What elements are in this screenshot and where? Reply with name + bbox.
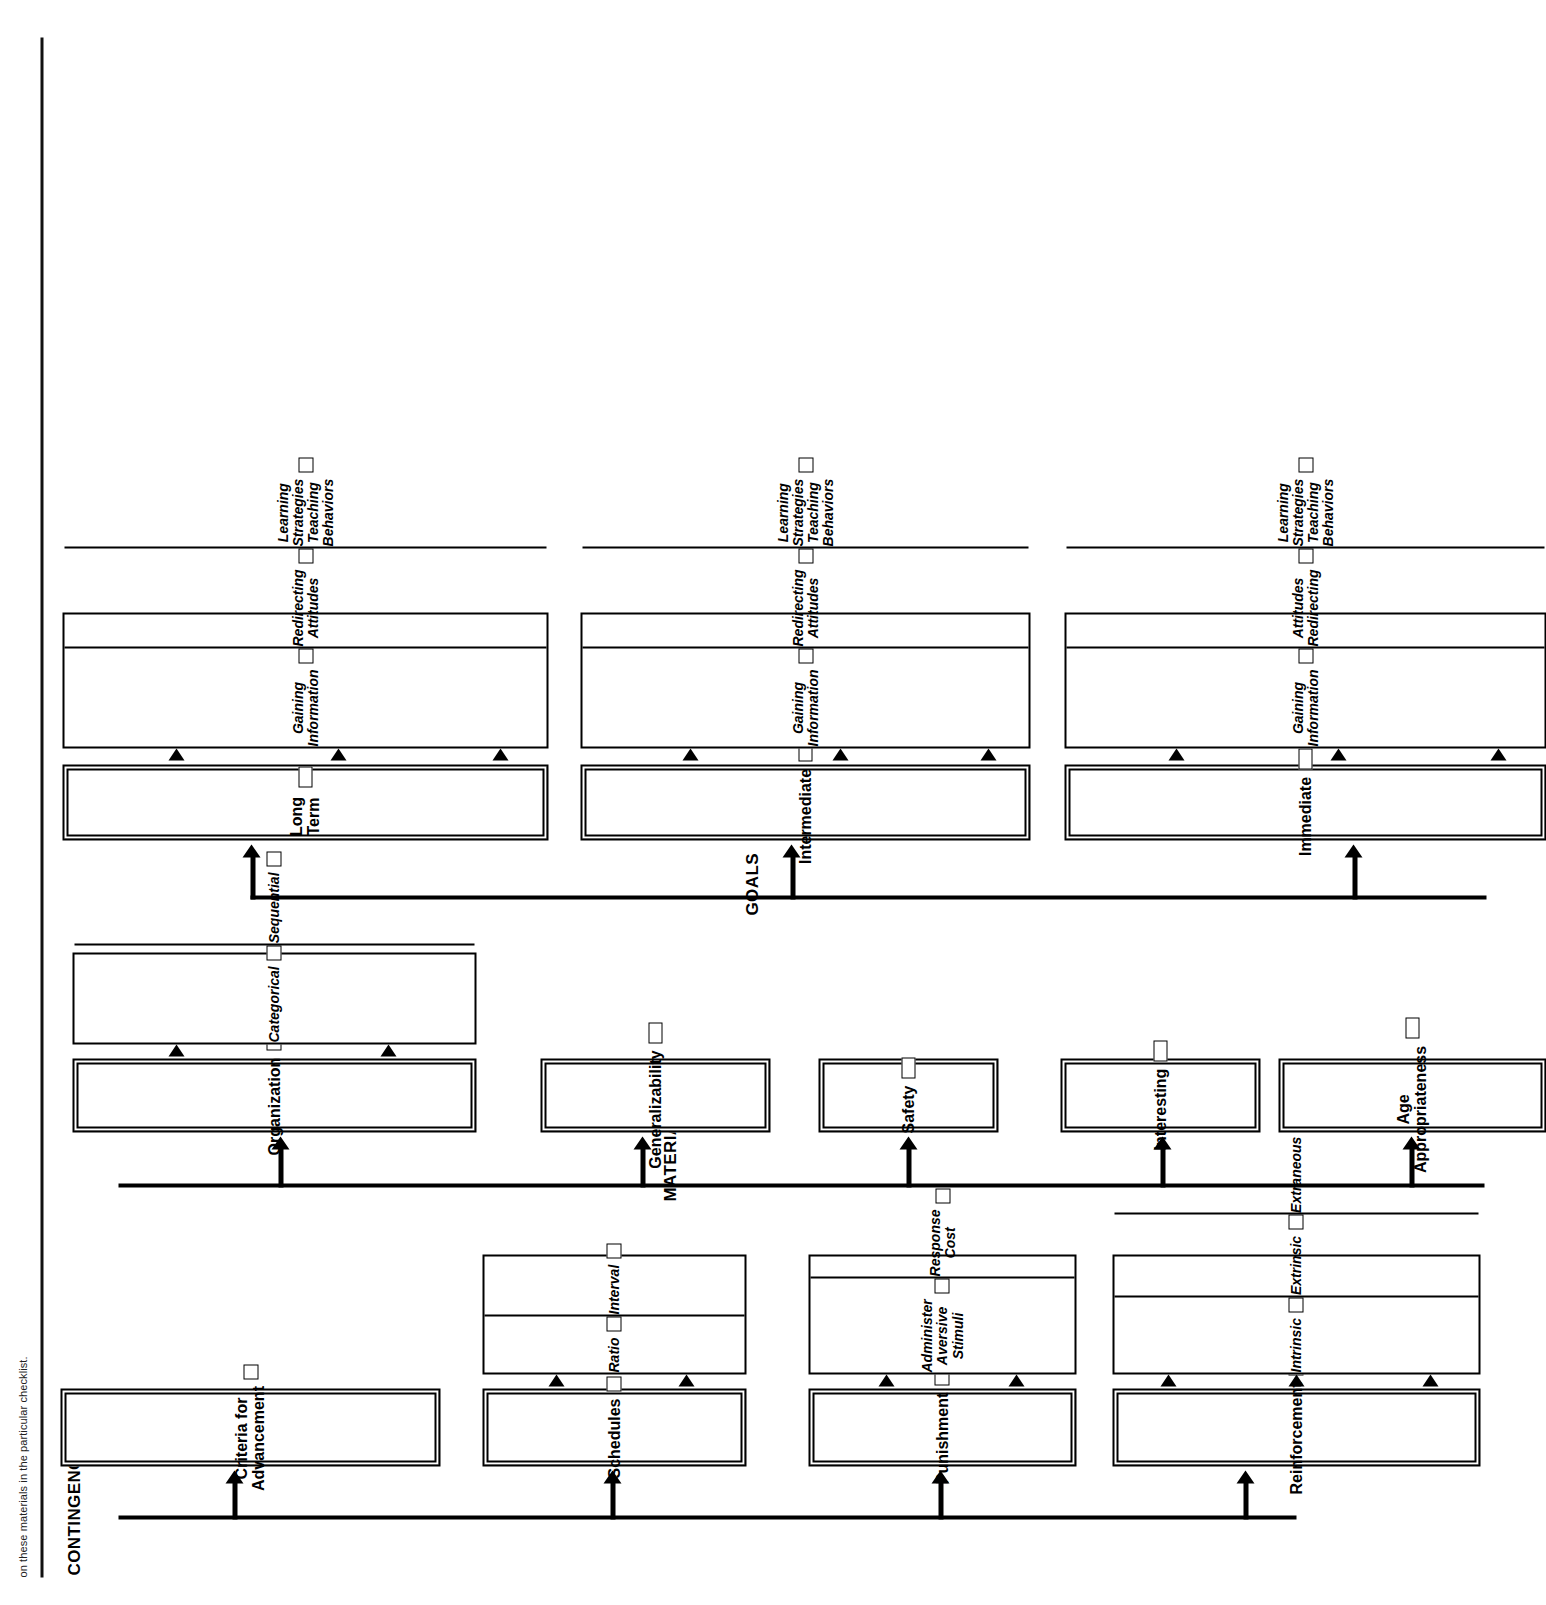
cell-intermediate-redirecting-attitudes-label: RedirectingAttitudes xyxy=(790,569,820,646)
node-age-appropriateness[interactable]: Age Appropriateness xyxy=(1278,1058,1546,1132)
arrow-categorical xyxy=(380,1044,396,1056)
cell-response-cost[interactable]: ResponseCost xyxy=(810,1188,1074,1278)
stem-reinforcement xyxy=(1243,1481,1248,1519)
arrow-intermediate-gaining-information xyxy=(980,748,996,760)
checkbox-long-term-learning-strategies[interactable] xyxy=(298,457,313,472)
cell-immediate-gaining-information[interactable]: GainingInformation xyxy=(1066,648,1544,746)
arrow-administer-aversive-stimuli xyxy=(1008,1374,1024,1386)
checkbox-sequential[interactable] xyxy=(266,851,281,866)
node-generalizability[interactable]: Generalizability xyxy=(540,1058,770,1132)
materials-trunk xyxy=(118,1183,1484,1187)
cell-long-term-redirecting-attitudes-label: RedirectingAttitudes xyxy=(290,569,320,646)
checkbox-immediate-attitudes-redirecting[interactable] xyxy=(1298,548,1313,563)
cell-long-term-gaining-information[interactable]: GainingInformation xyxy=(64,648,546,746)
checkbox-immediate[interactable] xyxy=(1298,748,1312,769)
cell-interval-label: Interval xyxy=(606,1264,621,1314)
node-immediate-label: Immediate xyxy=(1297,776,1314,855)
checkbox-administer-aversive-stimuli[interactable] xyxy=(934,1278,949,1293)
cell-long-term-gaining-information-label: GainingInformation xyxy=(290,669,320,746)
node-intermediate-label: Intermediate xyxy=(797,768,814,863)
checkbox-long-term[interactable] xyxy=(298,766,312,787)
cell-long-term-redirecting-attitudes[interactable]: RedirectingAttitudes xyxy=(64,548,546,648)
node-reinforcement-label: Reinforcement xyxy=(1288,1382,1305,1494)
cell-extraneous-label: Extraneous xyxy=(1288,1136,1303,1212)
node-safety[interactable]: Safety xyxy=(818,1058,998,1132)
stem-interesting xyxy=(1160,1147,1165,1187)
checkbox-intrinsic[interactable] xyxy=(1288,1297,1303,1312)
checkbox-age-appropriateness[interactable] xyxy=(1405,1017,1419,1038)
arrow-ratio xyxy=(678,1374,694,1386)
node-schedules[interactable]: Schedules xyxy=(482,1388,746,1466)
node-organization[interactable]: Organization xyxy=(72,1058,476,1132)
cell-intermediate-redirecting-attitudes[interactable]: RedirectingAttitudes xyxy=(582,548,1028,648)
stem-long-term xyxy=(250,855,255,899)
node-punishment-label: Punishment xyxy=(934,1392,951,1484)
arrow-intermediate-redirecting-attitudes xyxy=(832,748,848,760)
arrow-long-term-gaining-information xyxy=(492,748,508,760)
node-safety-label: Safety xyxy=(900,1085,917,1133)
checkbox-generalizability[interactable] xyxy=(648,1022,662,1043)
node-punishment[interactable]: Punishment xyxy=(808,1388,1076,1466)
cell-immediate-attitudes-redirecting[interactable]: AttitudesRedirecting xyxy=(1066,548,1544,648)
node-organization-label: Organization xyxy=(266,1057,283,1155)
arrow-sequential xyxy=(168,1044,184,1056)
goals-trunk xyxy=(250,895,1486,899)
arrowhead-immediate xyxy=(1344,844,1362,857)
node-reinforcement[interactable]: Reinforcement xyxy=(1112,1388,1480,1466)
checkbox-long-term-gaining-information[interactable] xyxy=(298,648,313,663)
checkbox-categorical[interactable] xyxy=(266,945,281,960)
checkbox-intermediate-learning-strategies[interactable] xyxy=(798,457,813,472)
cell-administer-aversive-stimuli-label: AdministerAversiveStimuli xyxy=(919,1299,964,1372)
cell-intermediate-gaining-information[interactable]: GainingInformation xyxy=(582,648,1028,746)
node-intermediate[interactable]: Intermediate xyxy=(580,764,1030,840)
cell-interval[interactable]: Interval xyxy=(484,1243,744,1316)
arrow-extrinsic xyxy=(1288,1374,1304,1386)
checkbox-long-term-redirecting-attitudes[interactable] xyxy=(298,548,313,563)
checkbox-interesting[interactable] xyxy=(1153,1040,1167,1061)
cell-immediate-attitudes-redirecting-label: AttitudesRedirecting xyxy=(1290,569,1320,646)
node-immediate[interactable]: Immediate xyxy=(1064,764,1546,840)
cell-intermediate-learning-strategies[interactable]: LearningStrategiesTeachingBehaviors xyxy=(582,457,1028,548)
stem-punishment xyxy=(938,1481,943,1519)
cell-immediate-learning-strategies-label: LearningStrategiesTeachingBehaviors xyxy=(1275,478,1335,546)
checkbox-immediate-learning-strategies[interactable] xyxy=(1298,457,1313,472)
stem-schedules xyxy=(610,1481,615,1519)
cell-extrinsic[interactable]: Extrinsic xyxy=(1114,1214,1478,1296)
stem-immediate xyxy=(1352,855,1357,899)
arrow-long-term-learning-strategies xyxy=(168,748,184,760)
node-long-term-label: Long Term xyxy=(288,794,322,838)
arrow-response-cost xyxy=(878,1374,894,1386)
children-punishment: AdministerAversiveStimuli ResponseCost xyxy=(808,1254,1076,1374)
node-long-term[interactable]: Long Term xyxy=(62,764,548,840)
cell-long-term-learning-strategies[interactable]: LearningStrategiesTeachingBehaviors xyxy=(64,457,546,548)
cell-intrinsic[interactable]: Intrinsic xyxy=(1114,1297,1478,1372)
checkbox-criteria-for-advancement[interactable] xyxy=(243,1364,258,1379)
checkbox-interval[interactable] xyxy=(606,1243,621,1258)
node-interesting[interactable]: Interesting xyxy=(1060,1058,1260,1132)
arrow-immediate-learning-strategies xyxy=(1168,748,1184,760)
section-label-goals: GOALS xyxy=(742,853,762,915)
arrowhead-long-term xyxy=(242,844,260,857)
arrow-immediate-gaining-information xyxy=(1490,748,1506,760)
cell-ratio[interactable]: Ratio xyxy=(484,1316,744,1372)
checkbox-intermediate-gaining-information[interactable] xyxy=(798,648,813,663)
cell-response-cost-label: ResponseCost xyxy=(927,1209,957,1276)
checkbox-response-cost[interactable] xyxy=(935,1188,950,1203)
checkbox-schedules[interactable] xyxy=(606,1376,621,1391)
checkbox-safety[interactable] xyxy=(901,1057,915,1078)
checkbox-extrinsic[interactable] xyxy=(1288,1214,1303,1229)
cell-administer-aversive-stimuli[interactable]: AdministerAversiveStimuli xyxy=(810,1278,1074,1372)
node-interesting-label: Interesting xyxy=(1152,1068,1169,1150)
node-criteria-for-advancement[interactable]: Criteria for Advancement xyxy=(60,1388,440,1466)
cell-extrinsic-label: Extrinsic xyxy=(1288,1235,1303,1294)
cell-immediate-gaining-information-label: GainingInformation xyxy=(1290,669,1320,746)
checkbox-immediate-gaining-information[interactable] xyxy=(1298,648,1313,663)
stem-intermediate xyxy=(790,855,795,899)
node-criteria-for-advancement-label: Criteria for Advancement xyxy=(233,1386,267,1491)
cell-immediate-learning-strategies[interactable]: LearningStrategiesTeachingBehaviors xyxy=(1066,457,1544,548)
checkbox-ratio[interactable] xyxy=(606,1316,621,1331)
checkbox-intermediate-redirecting-attitudes[interactable] xyxy=(798,548,813,563)
cell-intermediate-learning-strategies-label: LearningStrategiesTeachingBehaviors xyxy=(775,478,835,546)
cell-categorical[interactable]: Categorical xyxy=(74,945,474,1042)
